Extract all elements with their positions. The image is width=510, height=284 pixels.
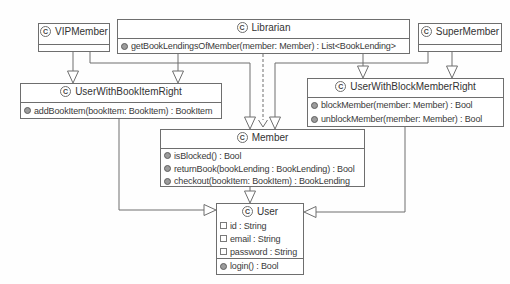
operations-compartment: blockMember(member: Member) : Bool unblo… <box>308 97 503 126</box>
dependency-librarian-to-member <box>259 54 268 127</box>
attribute-row: email : String <box>217 232 303 245</box>
class-name: Librarian <box>252 22 291 33</box>
method-row: unblockMember(member: Member) : Bool <box>308 112 503 126</box>
method-icon <box>164 165 171 172</box>
attribute-label: password : String <box>230 247 297 257</box>
method-label: checkout(bookItem: BookItem) : BookLendi… <box>174 176 350 186</box>
operations-compartment <box>419 44 501 51</box>
class-vipmember[interactable]: C VIPMember <box>38 23 110 52</box>
method-icon <box>220 263 227 270</box>
method-icon <box>24 107 31 114</box>
method-label: isBlocked() : Bool <box>174 151 241 161</box>
generalization-vipmember-to-userwithbookitemright <box>68 52 79 83</box>
attribute-icon <box>220 222 227 229</box>
method-icon <box>311 116 318 123</box>
class-member[interactable]: C Member isBlocked() : Bool returnBook(b… <box>160 129 365 187</box>
method-label: unblockMember(member: Member) : Bool <box>321 114 482 124</box>
operations-compartment: isBlocked() : Bool returnBook(bookLendin… <box>161 148 364 186</box>
method-icon <box>311 102 318 109</box>
class-supermember[interactable]: C SuperMember <box>418 23 502 52</box>
class-userwithbookitemright[interactable]: C UserWithBookItemRight addBookItem(book… <box>20 83 222 119</box>
class-icon: C <box>237 22 248 33</box>
method-label: addBookItem(bookItem: BookItem) : BookIt… <box>34 106 212 116</box>
method-label: getBookLendingsOfMember(member: Member) … <box>131 41 396 51</box>
class-name: User <box>257 206 278 217</box>
method-label: blockMember(member: Member) : Bool <box>321 100 472 110</box>
class-name: SuperMember <box>436 26 499 37</box>
generalization-librarian-to-userwithblockmemberright <box>358 54 369 78</box>
attribute-label: id : String <box>230 221 266 231</box>
class-icon: C <box>421 26 432 37</box>
class-name: UserWithBookItemRight <box>75 86 182 97</box>
method-row: getBookLendingsOfMember(member: Member) … <box>118 39 409 53</box>
generalization-librarian-to-userwithbookitemright <box>173 54 184 83</box>
method-row: blockMember(member: Member) : Bool <box>308 98 503 112</box>
class-librarian[interactable]: C Librarian getBookLendingsOfMember(memb… <box>117 19 410 54</box>
operations-compartment: addBookItem(bookItem: BookItem) : BookIt… <box>21 102 221 118</box>
method-label: returnBook(bookLending : BookLending) : … <box>174 164 355 174</box>
method-row: checkout(bookItem: BookItem) : BookLendi… <box>161 175 364 186</box>
operations-compartment: getBookLendingsOfMember(member: Member) … <box>118 38 409 53</box>
method-label: login() : Bool <box>230 261 278 271</box>
attributes-compartment: id : String email : String password : St… <box>217 219 303 258</box>
operations-compartment: login() : Bool <box>217 258 303 274</box>
attribute-label: email : String <box>230 234 280 244</box>
class-icon: C <box>335 81 346 92</box>
class-icon: C <box>40 26 51 37</box>
class-name: VIPMember <box>55 26 108 37</box>
method-icon <box>121 43 128 50</box>
class-name: Member <box>252 132 289 143</box>
operations-compartment <box>39 44 109 51</box>
class-icon: C <box>60 86 71 97</box>
class-user[interactable]: C User id : String email : String passwo… <box>216 203 304 275</box>
method-icon <box>164 178 171 185</box>
method-row: isBlocked() : Bool <box>161 149 364 162</box>
method-row: login() : Bool <box>217 259 303 273</box>
attribute-icon <box>220 248 227 255</box>
class-icon: C <box>242 206 253 217</box>
generalization-supermember-to-userwithblockmemberright <box>447 52 458 78</box>
class-name: UserWithBlockMemberRight <box>350 81 476 92</box>
uml-class-diagram: C VIPMember C Librarian getBookLendingsO… <box>0 0 510 284</box>
method-row: addBookItem(bookItem: BookItem) : BookIt… <box>21 103 221 118</box>
class-userwithblockmemberright[interactable]: C UserWithBlockMemberRight blockMember(m… <box>307 78 504 127</box>
attribute-icon <box>220 235 227 242</box>
generalization-member-to-user <box>245 187 256 203</box>
attribute-row: id : String <box>217 219 303 232</box>
method-icon <box>164 152 171 159</box>
method-row: returnBook(bookLending : BookLending) : … <box>161 162 364 175</box>
class-icon: C <box>237 132 248 143</box>
attribute-row: password : String <box>217 245 303 258</box>
